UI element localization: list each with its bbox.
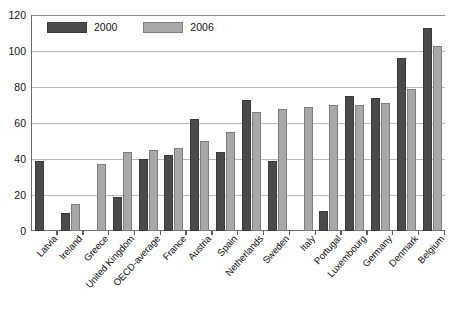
bar-2006-luxembourg	[355, 105, 364, 231]
bar-group	[239, 15, 265, 231]
bars-layer	[32, 15, 445, 231]
y-tick-label-0: 0	[0, 225, 26, 237]
bar-2006-ireland	[71, 204, 80, 231]
x-label-spain: Spain	[215, 233, 239, 258]
bar-chart: 120 100 80 60 40 20 0 2000 2006 LatviaIr…	[0, 0, 452, 314]
bar-group	[84, 15, 110, 231]
bar-group	[187, 15, 213, 231]
bar-2006-oecd-average	[149, 150, 158, 231]
x-label-latvia: Latvia	[34, 233, 59, 259]
bar-group	[393, 15, 419, 231]
bar-2006-spain	[226, 132, 235, 231]
y-tick-label-40: 40	[0, 153, 26, 165]
x-label-oecd-average: OECD-average	[111, 233, 162, 288]
bar-group	[32, 15, 58, 231]
y-tick-label-60: 60	[0, 117, 26, 129]
bar-2006-united-kingdom	[123, 152, 132, 231]
bar-2000-latvia	[35, 161, 44, 231]
bar-2006-austria	[200, 141, 209, 231]
bar-2000-ireland	[61, 213, 70, 231]
bar-2006-sweden	[278, 109, 287, 231]
bar-2000-belgium	[423, 28, 432, 231]
y-tick-label-20: 20	[0, 189, 26, 201]
x-label-france: France	[160, 233, 188, 262]
bar-2006-denmark	[407, 89, 416, 231]
bar-group	[264, 15, 290, 231]
x-label-belgium: Belgium	[415, 233, 446, 266]
bar-group	[368, 15, 394, 231]
x-label-sweden: Sweden	[260, 233, 291, 266]
bar-group	[109, 15, 135, 231]
legend-item-2000: 2000	[47, 21, 117, 33]
bar-2000-austria	[190, 119, 199, 231]
bar-2000-germany	[371, 98, 380, 231]
bar-2000-luxembourg	[345, 96, 354, 231]
bar-2000-oecd-average	[139, 159, 148, 231]
bar-2000-portugal	[319, 211, 328, 231]
bar-group	[161, 15, 187, 231]
bar-2000-denmark	[397, 58, 406, 231]
x-axis-labels: LatviaIrelandGreeceUnited KingdomOECD-av…	[32, 233, 445, 311]
x-label-italy: Italy	[297, 233, 317, 253]
y-tick-label-100: 100	[0, 45, 26, 57]
bar-group	[316, 15, 342, 231]
bar-2006-france	[174, 148, 183, 231]
bar-2006-belgium	[433, 46, 442, 231]
bar-group	[58, 15, 84, 231]
y-tick-label-80: 80	[0, 81, 26, 93]
legend-swatch-2000	[47, 22, 87, 33]
legend-label-2006: 2006	[190, 21, 213, 33]
bar-group	[135, 15, 161, 231]
bar-group	[290, 15, 316, 231]
legend-item-2006: 2006	[143, 21, 213, 33]
bar-group	[342, 15, 368, 231]
bar-2000-france	[164, 155, 173, 231]
bar-2000-spain	[216, 152, 225, 231]
bar-2006-germany	[381, 103, 390, 231]
bar-2006-greece	[97, 164, 106, 231]
bar-2006-portugal	[329, 105, 338, 231]
x-label-austria: Austria	[186, 233, 214, 262]
bar-2000-united-kingdom	[113, 197, 122, 231]
bar-2006-italy	[304, 107, 313, 231]
legend-swatch-2006	[143, 22, 183, 33]
y-tick-label-120: 120	[0, 9, 26, 21]
legend-label-2000: 2000	[94, 21, 117, 33]
x-label-ireland: Ireland	[57, 233, 84, 262]
bar-2000-sweden	[268, 161, 277, 231]
bar-group	[213, 15, 239, 231]
bar-2006-netherlands	[252, 112, 261, 231]
bar-group	[419, 15, 445, 231]
bar-2000-netherlands	[242, 100, 251, 231]
legend: 2000 2006	[47, 21, 214, 33]
